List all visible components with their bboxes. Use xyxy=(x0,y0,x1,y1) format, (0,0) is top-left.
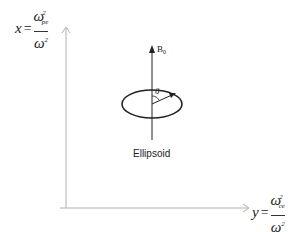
angle-arc xyxy=(152,96,159,100)
x-fraction-bar xyxy=(34,31,49,32)
x-den-omega: ω xyxy=(34,35,45,51)
y-axis-label: y = ω2ce ω2 xyxy=(252,190,285,232)
x-variable: x xyxy=(15,20,22,37)
x-den-sup: 2 xyxy=(44,36,48,44)
y-fraction-bar xyxy=(271,215,285,216)
x-numerator: ω2pe xyxy=(34,6,49,30)
x-denominator: ω2 xyxy=(34,33,48,51)
y-equals: = xyxy=(261,205,269,221)
y-den-omega: ω xyxy=(271,219,282,232)
field-label: B0 xyxy=(157,44,166,55)
y-fraction: ω2ce ω2 xyxy=(271,190,285,232)
y-variable: y xyxy=(252,204,259,221)
x-num-sup: 2 xyxy=(42,9,46,17)
field-arrowhead xyxy=(149,45,155,53)
y-denominator: ω2 xyxy=(271,217,285,232)
y-num-sub: ce xyxy=(279,202,285,210)
y-den-sup: 2 xyxy=(281,220,285,228)
x-equals: = xyxy=(24,21,32,37)
angle-label: θ xyxy=(155,86,159,96)
x-fraction: ω2pe ω2 xyxy=(34,6,49,51)
ellipsoid-caption-text: Ellipsoid xyxy=(133,148,170,159)
ellipsoid-caption: Ellipsoid xyxy=(133,148,170,159)
x-axis-label: x = ω2pe ω2 xyxy=(15,6,48,51)
y-numerator: ω2ce xyxy=(271,190,285,214)
field-label-sub: 0 xyxy=(163,49,166,55)
x-num-sub: pe xyxy=(42,18,49,26)
theta-symbol: θ xyxy=(155,86,159,96)
y-num-sup: 2 xyxy=(279,193,283,201)
